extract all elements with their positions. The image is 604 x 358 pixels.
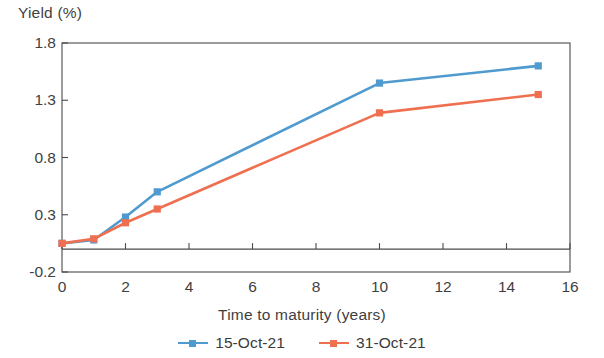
data-point-marker [154, 205, 161, 212]
data-point-marker [122, 219, 129, 226]
legend-label: 31-Oct-21 [356, 334, 426, 352]
y-axis-tick-label: 1.3 [4, 92, 56, 108]
y-axis-tick-label: 0.8 [4, 150, 56, 166]
x-axis-tick-label: 10 [360, 278, 400, 296]
y-axis-tick-label: 0.3 [4, 207, 56, 223]
legend-swatch-icon [319, 336, 349, 350]
yield-curve-chart: Yield (%) 1.81.30.80.3-0.2 0246810121416… [0, 0, 604, 358]
x-axis-title: Time to maturity (years) [0, 306, 604, 324]
data-point-marker [154, 188, 161, 195]
x-axis-tick-label: 8 [296, 278, 336, 296]
data-point-marker [535, 91, 542, 98]
legend-swatch-icon [178, 336, 208, 350]
plot-frame [62, 43, 570, 272]
series-line-2 [62, 95, 538, 244]
legend-label: 15-Oct-21 [215, 334, 285, 352]
x-axis-tick-label: 6 [233, 278, 273, 296]
legend-item-1[interactable]: 15-Oct-21 [178, 334, 285, 352]
plot-area [0, 0, 604, 358]
x-axis-tick-label: 4 [169, 278, 209, 296]
data-point-marker [58, 240, 65, 247]
chart-legend: 15-Oct-2131-Oct-21 [0, 334, 604, 352]
data-point-marker [90, 235, 97, 242]
y-axis-tick-label: 1.8 [4, 35, 56, 51]
x-axis-tick-label: 14 [487, 278, 527, 296]
x-axis-tick-label: 2 [106, 278, 146, 296]
data-point-marker [376, 109, 383, 116]
series-line-1 [62, 66, 538, 243]
data-point-marker [535, 62, 542, 69]
legend-item-2[interactable]: 31-Oct-21 [319, 334, 426, 352]
x-axis-tick-label: 12 [423, 278, 463, 296]
x-axis-tick-label: 16 [550, 278, 590, 296]
data-point-marker [376, 79, 383, 86]
x-axis-tick-label: 0 [42, 278, 82, 296]
